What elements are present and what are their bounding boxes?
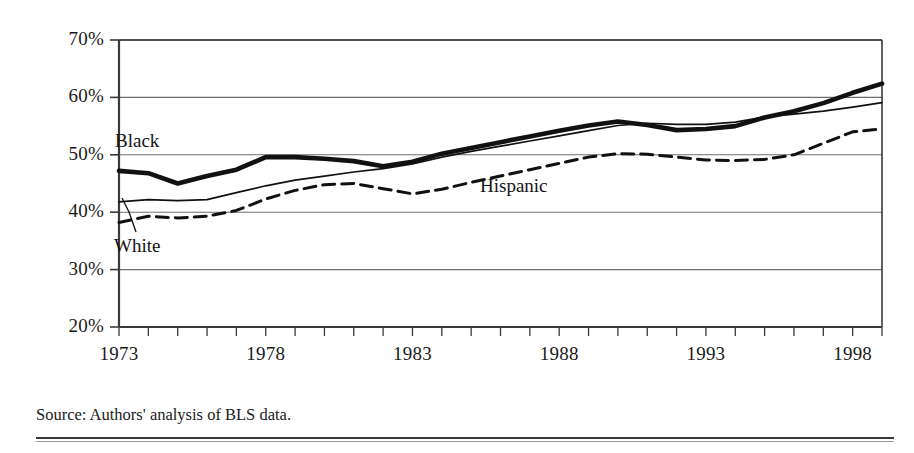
x-axis-label-1988: 1988 (524, 343, 594, 365)
x-axis-ticks-group (119, 327, 882, 336)
x-axis-label-1983: 1983 (377, 343, 447, 365)
annotation-leader-lines-group (122, 198, 136, 232)
bottom-rule-secondary (36, 441, 894, 442)
y-axis-label-20: 20% (32, 315, 104, 337)
bottom-rule (36, 437, 894, 439)
y-axis-label-40: 40% (32, 200, 104, 222)
series-label-black: Black (115, 130, 159, 152)
chart-plot-area: 70%60%50%40%30%20% 197319781983198819931… (0, 0, 914, 360)
y-axis-label-30: 30% (32, 258, 104, 280)
line-chart-svg (0, 0, 914, 360)
x-axis-label-1973: 1973 (84, 343, 154, 365)
series-line-black (119, 84, 882, 184)
x-axis-label-1998: 1998 (818, 343, 888, 365)
x-axis-label-1993: 1993 (671, 343, 741, 365)
series-label-white: White (114, 235, 160, 257)
y-axis-label-50: 50% (32, 143, 104, 165)
data-series-group (119, 84, 882, 223)
x-axis-label-1978: 1978 (231, 343, 301, 365)
white-label-leader-line (122, 198, 136, 232)
y-axis-label-60: 60% (32, 85, 104, 107)
series-label-hispanic: Hispanic (480, 175, 548, 197)
figure-container: 70%60%50%40%30%20% 197319781983198819931… (0, 0, 914, 453)
source-note: Source: Authors' analysis of BLS data. (36, 405, 291, 425)
y-axis-label-70: 70% (32, 28, 104, 50)
